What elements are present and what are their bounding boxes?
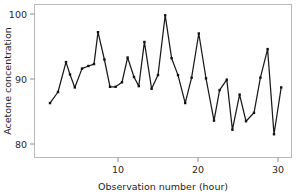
x-tick-label-30: 30	[272, 164, 284, 175]
data-point	[87, 65, 89, 67]
data-point	[157, 74, 159, 76]
data-point	[231, 129, 233, 131]
data-point	[97, 31, 99, 33]
data-point	[81, 67, 83, 69]
data-point	[57, 91, 59, 93]
data-point	[253, 112, 255, 114]
data-point	[133, 76, 135, 78]
data-point	[273, 133, 275, 135]
line-chart-svg: 100 90 80 10 20 30 Observation number (h…	[0, 0, 297, 196]
x-tick-label-10: 10	[112, 164, 124, 175]
chart-figure: 100 90 80 10 20 30 Observation number (h…	[0, 0, 297, 196]
data-point	[109, 86, 111, 88]
x-axis-title: Observation number (hour)	[98, 181, 228, 192]
data-point	[121, 81, 123, 83]
data-point	[245, 120, 247, 122]
y-tick-label-100: 100	[9, 9, 27, 20]
data-point	[205, 77, 207, 79]
data-point	[164, 14, 166, 16]
data-point	[226, 78, 228, 80]
data-point	[190, 77, 192, 79]
data-point	[280, 86, 282, 88]
data-point	[114, 86, 116, 88]
data-point	[143, 41, 145, 43]
data-point	[74, 86, 76, 88]
x-tick-label-20: 20	[192, 164, 204, 175]
data-point	[213, 119, 215, 121]
y-tick-label-90: 90	[15, 74, 27, 85]
data-point	[49, 102, 51, 104]
data-point	[103, 58, 105, 60]
data-point	[177, 74, 179, 76]
data-point	[218, 89, 220, 91]
data-point	[198, 32, 200, 34]
data-point	[93, 63, 95, 65]
y-axis-title: Acetone concentration	[2, 27, 13, 135]
data-point	[138, 85, 140, 87]
data-point	[69, 73, 71, 75]
data-point	[259, 77, 261, 79]
data-point	[170, 57, 172, 59]
data-point	[65, 61, 67, 63]
data-point	[150, 88, 152, 90]
y-tick-label-80: 80	[15, 139, 27, 150]
data-point	[184, 102, 186, 104]
data-point	[126, 56, 128, 58]
figure-background	[0, 0, 297, 196]
data-point	[266, 48, 268, 50]
data-point	[238, 93, 240, 95]
